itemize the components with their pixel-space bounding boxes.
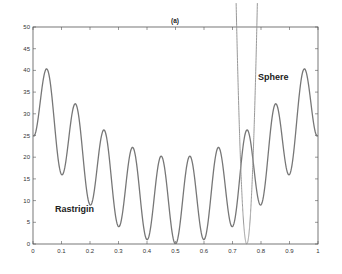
y-tick-label: 15 <box>23 176 30 182</box>
y-tick-label: 30 <box>23 111 30 117</box>
x-tick-label: 0.2 <box>86 248 95 254</box>
chart-background <box>0 0 342 274</box>
y-tick-label: 40 <box>23 67 30 73</box>
y-tick-label: 20 <box>23 154 30 160</box>
annotation-rastrigin: Rastrigin <box>55 204 94 214</box>
x-tick-label: 0.8 <box>257 248 266 254</box>
x-tick-label: 0.4 <box>143 248 152 254</box>
y-tick-label: 45 <box>23 46 30 52</box>
x-tick-label: 0.1 <box>57 248 66 254</box>
y-tick-label: 35 <box>23 89 30 95</box>
y-tick-label: 50 <box>23 24 30 30</box>
x-tick-label: 0.7 <box>228 248 237 254</box>
chart-title: (a) <box>171 17 179 25</box>
x-tick-label: 0.6 <box>200 248 209 254</box>
annotation-sphere: Sphere <box>258 72 289 82</box>
y-tick-label: 25 <box>23 133 30 139</box>
chart-figure: (a) 00.10.20.30.40.50.60.70.80.910510152… <box>0 0 342 274</box>
x-tick-label: 0.3 <box>114 248 123 254</box>
y-tick-label: 10 <box>23 198 30 204</box>
x-tick-label: 0.9 <box>285 248 294 254</box>
x-tick-label: 0.5 <box>171 248 180 254</box>
